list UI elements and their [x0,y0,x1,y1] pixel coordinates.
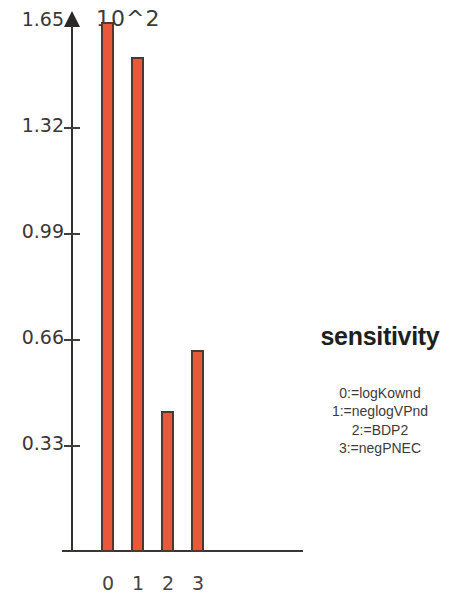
x-tick-label: 2 [156,572,180,594]
legend-entry: 1:=neglogVPnd [300,402,460,420]
legend-entry: 0:=logKownd [300,384,460,402]
legend-entry: 2:=BDP2 [300,421,460,439]
bar [161,411,174,552]
legend-entry-list: 0:=logKownd1:=neglogVPnd2:=BDP23:=negPNE… [300,384,460,458]
bar [101,22,114,552]
bar-chart: 10^2 1.65 1.32 0.99 0.66 0.33 0123 sensi… [0,0,462,603]
legend-entry: 3:=negPNEC [300,439,460,457]
bar [191,350,204,552]
chart-title: sensitivity [300,322,460,351]
x-tick-label: 3 [186,572,210,594]
legend: sensitivity 0:=logKownd1:=neglogVPnd2:=B… [300,322,460,458]
bars-group [0,0,462,603]
x-tick-label: 0 [96,572,120,594]
x-tick-label: 1 [126,572,150,594]
bar [131,57,144,552]
